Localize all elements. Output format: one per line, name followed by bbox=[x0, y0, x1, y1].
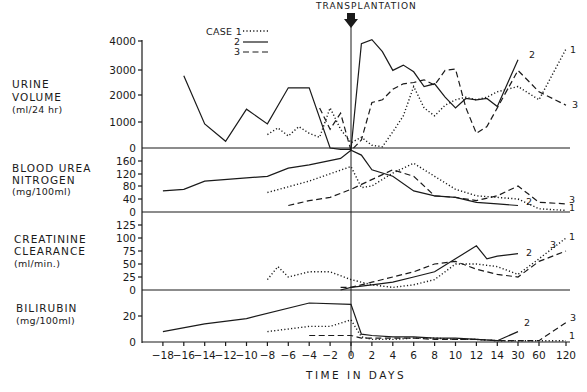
svg-text:75: 75 bbox=[123, 245, 136, 257]
svg-text:120: 120 bbox=[116, 168, 136, 180]
svg-text:30: 30 bbox=[511, 349, 524, 361]
svg-text:−18: −18 bbox=[152, 349, 174, 361]
x-ticks: −18−16−14−12−10−8−6−4−202468101214306012… bbox=[152, 342, 576, 361]
blood-urea-nitrogen-case-1-line bbox=[267, 163, 566, 210]
svg-text:−2: −2 bbox=[322, 349, 337, 361]
svg-text:−4: −4 bbox=[301, 349, 317, 361]
end-labels: 2 1 3 3 1 2 2 3 1 2 3 1 bbox=[524, 44, 578, 341]
svg-text:160: 160 bbox=[116, 155, 136, 167]
svg-text:0: 0 bbox=[348, 349, 355, 361]
svg-text:10: 10 bbox=[449, 349, 462, 361]
cc-label-2: CLEARANCE bbox=[14, 245, 86, 257]
urine-volume-case-3-line bbox=[320, 69, 566, 151]
urine-label-3: (ml/24 hr) bbox=[12, 104, 63, 115]
svg-text:0: 0 bbox=[129, 336, 136, 348]
urine-label-2: VOLUME bbox=[12, 91, 62, 103]
svg-text:2: 2 bbox=[524, 317, 530, 328]
svg-text:14: 14 bbox=[491, 349, 505, 361]
svg-text:−12: −12 bbox=[215, 349, 237, 361]
bun-label-3: (mg/100ml) bbox=[12, 186, 71, 197]
transplantation-label: TRANSPLANTATION bbox=[315, 1, 417, 11]
bun-label-2: NITROGEN bbox=[12, 174, 76, 186]
series bbox=[163, 40, 566, 341]
legend-3-label: 3 bbox=[234, 46, 240, 57]
svg-text:2: 2 bbox=[369, 349, 376, 361]
cc-label-3: (ml/min.) bbox=[14, 258, 60, 269]
svg-text:60: 60 bbox=[532, 349, 545, 361]
cc-label-1: CREATININE bbox=[14, 233, 87, 245]
transplantation-arrow-icon bbox=[344, 13, 358, 28]
svg-text:−10: −10 bbox=[235, 349, 257, 361]
svg-text:40: 40 bbox=[123, 193, 136, 205]
svg-text:50: 50 bbox=[123, 258, 136, 270]
svg-text:1: 1 bbox=[569, 330, 575, 341]
svg-text:1: 1 bbox=[569, 231, 575, 242]
svg-text:−8: −8 bbox=[260, 349, 275, 361]
svg-text:80: 80 bbox=[123, 180, 136, 192]
svg-text:12: 12 bbox=[470, 349, 483, 361]
blood-urea-nitrogen-case-3-line bbox=[288, 170, 566, 206]
svg-text:2: 2 bbox=[529, 49, 535, 60]
svg-text:3: 3 bbox=[550, 239, 556, 250]
y-ticks: 4000 3000 2000 1000 0 160 120 80 40 0 12… bbox=[109, 35, 142, 348]
svg-text:3: 3 bbox=[572, 99, 578, 110]
svg-text:−6: −6 bbox=[281, 349, 297, 361]
svg-text:120: 120 bbox=[556, 349, 576, 361]
svg-text:8: 8 bbox=[431, 349, 438, 361]
urine-label-1: URINE bbox=[12, 78, 50, 90]
bun-label-1: BLOOD UREA bbox=[12, 162, 91, 174]
svg-text:3: 3 bbox=[570, 312, 576, 323]
svg-text:20: 20 bbox=[123, 310, 136, 322]
svg-text:2: 2 bbox=[526, 196, 532, 207]
svg-text:−14: −14 bbox=[194, 349, 216, 361]
blood-urea-nitrogen-case-2-line bbox=[163, 150, 518, 205]
bili-label-2: (mg/100ml) bbox=[16, 315, 75, 326]
svg-text:6: 6 bbox=[410, 349, 417, 361]
svg-text:4000: 4000 bbox=[109, 35, 136, 47]
x-axis-label: TIME IN DAYS bbox=[305, 369, 406, 381]
chart: TRANSPLANTATION CASE 1 2 3 4000 3000 200… bbox=[0, 0, 587, 392]
svg-text:100: 100 bbox=[116, 232, 136, 244]
svg-text:1000: 1000 bbox=[109, 116, 136, 128]
creatinine-clearance-case-1-line bbox=[267, 238, 566, 287]
svg-text:−16: −16 bbox=[173, 349, 195, 361]
legend: CASE 1 2 3 bbox=[206, 26, 268, 57]
svg-text:2000: 2000 bbox=[109, 89, 136, 101]
svg-text:1: 1 bbox=[570, 44, 576, 55]
bili-label-1: BILIRUBIN bbox=[16, 302, 77, 314]
svg-text:125: 125 bbox=[116, 219, 136, 231]
svg-text:0: 0 bbox=[129, 284, 136, 296]
svg-text:0: 0 bbox=[129, 206, 136, 218]
svg-text:2: 2 bbox=[526, 247, 532, 258]
svg-text:0: 0 bbox=[129, 142, 136, 154]
svg-text:4: 4 bbox=[389, 349, 396, 361]
svg-text:25: 25 bbox=[123, 271, 136, 283]
svg-text:1: 1 bbox=[569, 202, 575, 213]
svg-text:3000: 3000 bbox=[109, 64, 136, 76]
panel-labels: URINE VOLUME (ml/24 hr) BLOOD UREA NITRO… bbox=[12, 78, 91, 326]
